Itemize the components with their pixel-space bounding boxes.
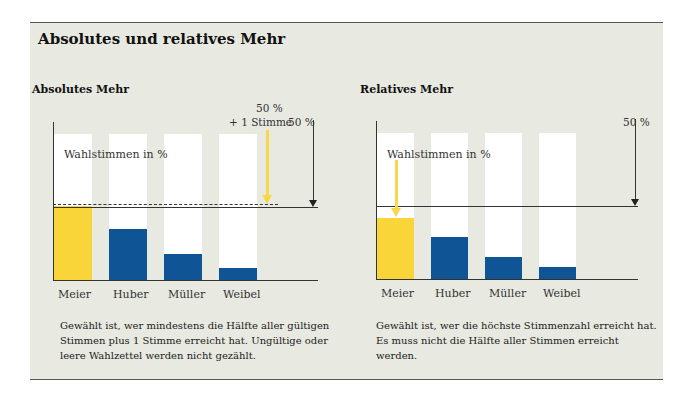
fifty-percent-line <box>376 206 638 207</box>
x-axis <box>376 279 638 280</box>
yellow-arrow-shaft <box>395 160 398 210</box>
right-desc-line: Es muss nicht die Hälfte aller Stimmen e… <box>376 333 663 363</box>
right-desc-line: Gewählt ist, wer die höchste Stimmenzahl… <box>376 318 663 333</box>
left-description: Gewählt ist, wer mindestens die Hälfte a… <box>60 318 329 363</box>
right-line-label: 50 % <box>623 116 650 128</box>
arrow-down-icon <box>631 199 639 206</box>
right-ylabel: Wahlstimmen in % <box>387 148 491 161</box>
yellow-arrow-down-icon <box>391 208 401 217</box>
right-chart: MeierHuberMüllerWeibel <box>30 23 663 323</box>
bar-müller <box>485 257 522 279</box>
figure-panel: Absolutes und relatives Mehr Absolutes M… <box>30 22 663 380</box>
left-desc-line: Stimmen plus 1 Stimme erreicht hat. Ungü… <box>60 333 329 348</box>
bar-huber <box>431 237 468 279</box>
category-label: Huber <box>435 287 471 300</box>
right-description: Gewählt ist, wer die höchste Stimmenzahl… <box>376 318 663 363</box>
category-label: Weibel <box>543 287 581 300</box>
left-desc-line: leere Wahlzettel werden nicht gezählt. <box>60 348 329 363</box>
bar-weibel <box>539 267 576 279</box>
category-label: Müller <box>489 287 526 300</box>
fifty-percent-arrow-shaft <box>635 119 636 200</box>
bar-meier <box>377 218 414 279</box>
category-label: Meier <box>381 287 414 300</box>
